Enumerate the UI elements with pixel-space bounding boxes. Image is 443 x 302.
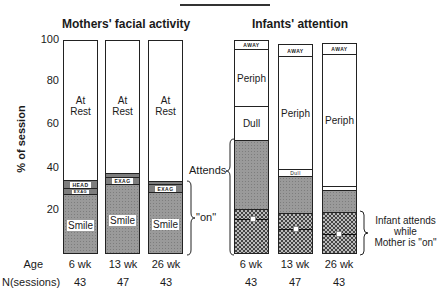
periph-segment: Periph [279,56,312,169]
mother-bar-26wk: At Rest EXAG Smile [148,40,183,254]
at-rest-segment: At Rest [106,81,139,131]
infant-attends-annotation: Infant attends while Mother is "on" [368,215,443,248]
at-rest-label-2: Rest [154,106,177,117]
infant-n-13wk: 47 [275,276,315,288]
infant-n-6wk: 43 [231,276,271,288]
away-segment: AWAY [279,45,312,56]
periph-segment: Periph [323,54,356,186]
dull-segment: Dull [235,106,268,140]
exag-segment: EXAG [149,184,182,192]
smile-label: Smile [152,219,179,230]
dull-label: Dull [242,118,261,129]
on-brace-icon [186,180,196,256]
infant-n-26wk: 43 [319,276,359,288]
smile-label: Smile [109,215,136,226]
mean-marker-icon [250,216,256,222]
annotation-line-2: while [368,226,443,237]
at-rest-label-2: Rest [111,106,134,117]
smile-segment: Smile [149,192,182,254]
infant-age-26wk: 26 wk [319,258,359,270]
periph-label: Periph [324,115,355,126]
infant-bar-6wk: AWAY Periph Dull [234,40,269,254]
at-rest-label-1: At [75,95,86,106]
attends-annotation: Attends [189,164,226,176]
attends-while-on-segment [279,213,312,254]
smile-label: Smile [67,220,94,231]
away-label: AWAY [285,48,305,54]
y-tick-20: 20 [33,203,59,215]
periph-segment: Periph [235,49,268,106]
head-segment: HEAD [64,180,97,188]
at-rest-label-1: At [117,95,128,106]
at-rest-label-1: At [160,95,171,106]
away-label: AWAY [329,46,349,52]
smile-segment: Smile [64,194,97,254]
dull-segment: Dull [279,169,312,176]
annotation-line-3: Mother is "on" [368,237,443,248]
y-tick-60: 60 [33,117,59,129]
infant-bar-13wk: AWAY Periph Dull [278,44,313,254]
annotation-line-1: Infant attends [368,215,443,226]
infant-bar-26wk: AWAY Periph [322,43,357,254]
infants-chart-title: Infants' attention [250,17,350,31]
exag-label: EXAG [72,190,89,194]
exag-label: EXAG [155,186,175,192]
periph-label: Periph [280,108,311,119]
infant-age-13wk: 13 wk [275,258,315,270]
mother-bar-13wk: At Rest EXAG Smile [105,40,140,254]
mother-age-6wk: 6 wk [60,258,100,270]
mother-age-26wk: 26 wk [146,258,186,270]
mean-marker-icon [293,226,299,232]
attends-segment [235,140,268,209]
at-rest-segment: At Rest [64,81,97,131]
periph-label: Periph [236,73,267,84]
mother-n-13wk: 47 [103,276,143,288]
mothers-chart-title: Mothers' facial activity [62,17,187,31]
y-tick-40: 40 [33,161,59,173]
mean-marker-icon [336,231,342,237]
top-rule [180,4,270,6]
away-segment: AWAY [235,41,268,49]
y-tick-100: 100 [33,33,59,45]
away-label: AWAY [241,42,261,48]
at-rest-segment: At Rest [149,81,182,131]
at-rest-label-2: Rest [69,106,92,117]
mother-bar-6wk: At Rest HEAD EXAG Smile [63,40,98,254]
n-sessions-row-label: N(sessions) [2,276,60,288]
smile-segment: Smile [106,184,139,254]
infant-age-6wk: 6 wk [231,258,271,270]
attends-segment [279,176,312,213]
head-label: HEAD [70,182,90,188]
away-segment: AWAY [323,44,356,54]
y-axis-label: % of session [15,79,27,199]
attends-while-on-segment [323,212,356,254]
mother-age-13wk: 13 wk [103,258,143,270]
mother-n-26wk: 43 [146,276,186,288]
attends-while-on-segment [235,209,268,254]
mother-n-6wk: 43 [60,276,100,288]
on-annotation: "on" [196,211,216,223]
age-row-label: Age [18,258,43,270]
y-tick-80: 80 [33,74,59,86]
attends-segment [323,190,356,212]
exag-segment: EXAG [106,177,139,184]
